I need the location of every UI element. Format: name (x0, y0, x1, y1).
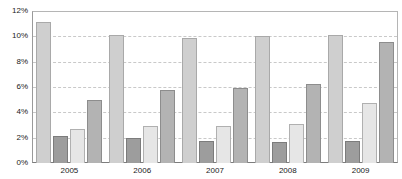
bar (53, 136, 68, 163)
bar-group-2008 (251, 12, 324, 163)
y-axis-tick-label: 0% (0, 158, 28, 167)
bar (199, 141, 214, 163)
x-axis-tick-label: 2006 (106, 166, 179, 175)
bar (233, 88, 248, 163)
bar (289, 124, 304, 163)
x-axis-tick-label: 2005 (33, 166, 106, 175)
bar-groups (33, 12, 397, 163)
bar-group-2005 (33, 12, 106, 163)
bar (379, 42, 394, 163)
bar (109, 35, 124, 163)
x-axis: 20052006200720082009 (33, 166, 397, 175)
bar (182, 38, 197, 163)
bar (126, 138, 141, 163)
bar (87, 100, 102, 163)
bar (255, 36, 270, 163)
y-axis-tick-label: 12% (0, 6, 28, 15)
bar (143, 126, 158, 163)
bar (328, 35, 343, 163)
bar (36, 22, 51, 163)
y-axis-tick-label: 10% (0, 31, 28, 40)
x-axis-tick-label: 2008 (251, 166, 324, 175)
bar (160, 90, 175, 163)
y-axis-tick-label: 6% (0, 82, 28, 91)
bar (362, 103, 377, 163)
y-axis-tick-label: 8% (0, 57, 28, 66)
bar (216, 126, 231, 163)
y-axis-tick-label: 4% (0, 107, 28, 116)
x-axis-tick-label: 2007 (179, 166, 252, 175)
bar-group-2007 (179, 12, 252, 163)
bar-group-2009 (324, 12, 397, 163)
y-axis-tick-label: 2% (0, 133, 28, 142)
x-axis-tick-label: 2009 (324, 166, 397, 175)
bar (345, 141, 360, 163)
bar (70, 129, 85, 163)
bar-group-2006 (106, 12, 179, 163)
bar (272, 142, 287, 163)
bar (306, 84, 321, 163)
bar-chart: 0%2%4%6%8%10%12% 20052006200720082009 (0, 0, 402, 179)
